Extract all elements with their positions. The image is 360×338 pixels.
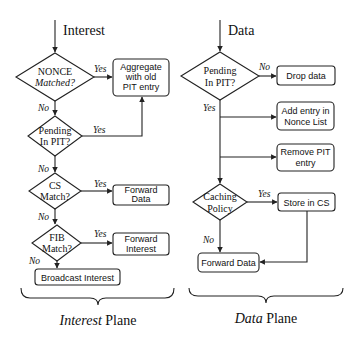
interest-pending-line2: In PIT? [40, 136, 71, 147]
data-pending-line2: In PIT? [205, 77, 236, 88]
fib-decision-line1: FIB [49, 232, 65, 243]
aggregate-line2: with old [125, 72, 157, 82]
pending-yes-arrow [82, 97, 142, 136]
caching-line1: Caching [203, 191, 236, 202]
data-entry-label: Data [228, 23, 255, 38]
data-pending-no-label: No [258, 62, 270, 72]
interest-pending-line1: Pending [39, 125, 72, 136]
nonce-yes-label: Yes [94, 64, 107, 74]
nonce-decision-line2: Matched? [34, 77, 75, 88]
pending-yes-label: Yes [93, 125, 106, 135]
flowchart: Interest NONCE Matched? Yes Aggregate wi… [0, 0, 360, 338]
add-nonce-line1: Add entry in [281, 106, 329, 116]
store-to-forward-arrow [260, 211, 307, 262]
data-plane-title: Data Plane [234, 311, 298, 326]
caching-yes-label: Yes [258, 189, 271, 199]
pending-no-label: No [37, 164, 49, 174]
cs-decision-line1: CS [49, 180, 61, 191]
nonce-decision-line1: NONCE [38, 66, 72, 77]
forward-interest-line1: Forward [124, 234, 157, 244]
data-plane-brace [189, 288, 343, 303]
cs-no-label: No [37, 212, 49, 222]
data-pending-line1: Pending [204, 65, 237, 76]
store-in-cs-label: Store in CS [283, 198, 329, 208]
interest-plane: Interest NONCE Matched? Yes Aggregate wi… [16, 20, 174, 328]
remove-pit-line1: Remove PIT [280, 147, 331, 157]
aggregate-line3: PIT entry [123, 82, 160, 92]
interest-entry-label: Interest [63, 23, 105, 38]
fib-decision-line2: Match? [42, 243, 73, 254]
fib-yes-label: Yes [94, 229, 107, 239]
caching-line2: Policy [207, 203, 233, 214]
drop-data-label: Drop data [286, 71, 326, 81]
forward-interest-line2: Interest [126, 244, 157, 254]
caching-no-label: No [202, 235, 214, 245]
remove-pit-line2: entry [295, 158, 316, 168]
fib-no-label: No [28, 256, 40, 266]
caching-policy-decision [193, 184, 247, 220]
nonce-no-label: No [37, 103, 49, 113]
forward-data-line2: Data [131, 194, 150, 204]
broadcast-interest-label: Broadcast Interest [41, 273, 115, 283]
aggregate-line1: Aggregate [120, 62, 162, 72]
interest-plane-title: Interest Plane [59, 313, 137, 328]
data-pending-yes-label: Yes [203, 103, 216, 113]
interest-plane-brace [21, 288, 174, 305]
cs-yes-label: Yes [94, 179, 107, 189]
cs-decision-line2: Match? [40, 191, 71, 202]
data-forward-data-label: Forward Data [201, 258, 256, 268]
data-pending-decision [181, 52, 259, 100]
add-nonce-line2: Nonce List [284, 117, 327, 127]
data-plane: Data Pending In PIT? No Drop data Yes Ad… [181, 20, 343, 326]
